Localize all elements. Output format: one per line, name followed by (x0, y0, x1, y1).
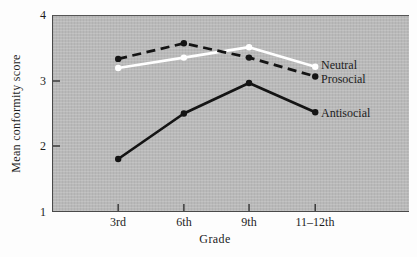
y-tick-label-4: 4 (25, 8, 46, 22)
x-tick-label-9th: 9th (217, 215, 281, 229)
series-label-antisocial: Antisocial (321, 106, 370, 120)
series-label-neutral: Neutral (321, 58, 357, 72)
y-axis-title: Mean conformity score (9, 24, 24, 204)
x-tick-label-3rd: 3rd (86, 215, 150, 229)
y-tick-label-1: 1 (25, 205, 46, 219)
x-axis-title: Grade (183, 232, 247, 247)
y-tick-label-3: 3 (25, 74, 46, 88)
series-label-prosocial: Prosocial (321, 72, 366, 86)
conformity-line-chart-figure: Mean conformity score 4 3 2 1 Neutral Pr… (0, 0, 417, 257)
x-tick-label-6th: 6th (152, 215, 216, 229)
x-tick-label-11-12th: 11–12th (283, 215, 347, 229)
y-tick-label-2: 2 (25, 139, 46, 153)
